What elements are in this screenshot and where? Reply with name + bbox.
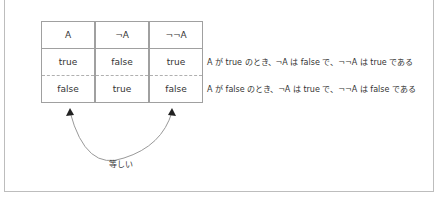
equal-label: 等しい — [109, 158, 133, 169]
arrow-head-right-icon — [168, 108, 176, 116]
equality-arc-arrow — [0, 0, 439, 197]
arrow-head-left-icon — [66, 108, 74, 116]
